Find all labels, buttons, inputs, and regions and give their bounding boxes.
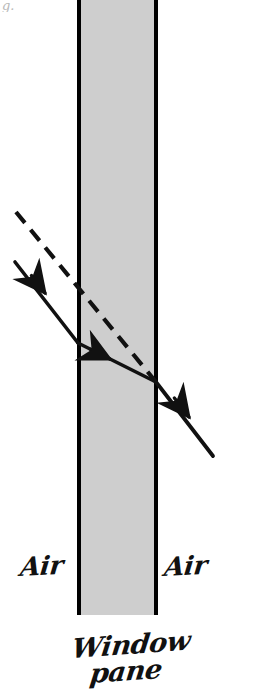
pane-left-surface: [77, 0, 81, 615]
window-pane-glass: [79, 0, 156, 615]
label-air-right: Air: [163, 550, 209, 582]
emergent-ray: [156, 382, 213, 456]
pane-right-surface: [154, 0, 158, 615]
refraction-figure: g. Air Air Window pane: [0, 0, 254, 696]
ray-diagram-canvas: [0, 0, 254, 696]
label-air-left: Air: [19, 550, 65, 582]
label-window-pane-line2: pane: [88, 653, 164, 689]
